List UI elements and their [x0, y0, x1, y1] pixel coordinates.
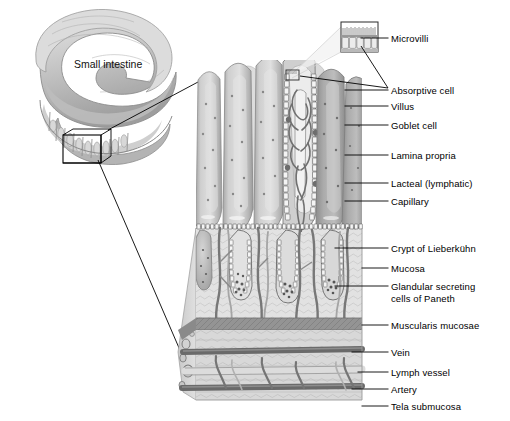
- villi-group: [196, 52, 366, 232]
- villus-cutaway: [283, 52, 318, 232]
- villus-1: [196, 72, 222, 228]
- label-muscularis-mucosae: Muscularis mucosae: [391, 320, 479, 332]
- label-tela-submucosa: Tela submucosa: [391, 401, 461, 413]
- villus-3: [254, 57, 284, 229]
- villus-6: [342, 77, 366, 229]
- label-absorptive-cell: Absorptive cell: [391, 85, 454, 97]
- label-lacteal-lymphatic: Lacteal (lymphatic): [391, 178, 473, 190]
- crypt-1: [196, 230, 212, 290]
- mucosal-surface-line: [197, 224, 362, 229]
- small-intestine-illustration: [36, 9, 176, 164]
- crypt-3: [276, 230, 300, 303]
- label-lymph-vessel: Lymph vessel: [391, 367, 450, 379]
- label-crypt-of-lieberkuhn: Crypt of Lieberkühn: [391, 243, 476, 255]
- inset-absorptive-cells: [342, 37, 377, 48]
- label-microvilli: Microvilli: [391, 33, 428, 45]
- label-goblet-cell: Goblet cell: [391, 120, 437, 132]
- villus-5: [316, 69, 346, 229]
- label-vein: Vein: [391, 347, 410, 359]
- label-artery: Artery: [391, 384, 417, 396]
- lymph-vessel-vessel: [185, 369, 362, 371]
- label-capillary: Capillary: [391, 196, 429, 208]
- villus-diagram-figure: Small intestine MicrovilliAbsorptive cel…: [0, 0, 510, 421]
- label-paneth-cells: Glandular secreting cells of Paneth: [391, 281, 475, 304]
- label-mucosa: Mucosa: [391, 263, 425, 275]
- crypt-2: [229, 230, 252, 300]
- villus-2: [223, 63, 253, 229]
- label-villus: Villus: [391, 101, 414, 113]
- small-intestine-label: Small intestine: [74, 58, 142, 70]
- label-lamina-propria: Lamina propria: [391, 150, 456, 162]
